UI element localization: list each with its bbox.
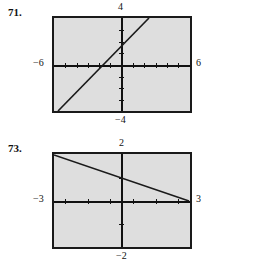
axis-label-left-71: −6 <box>33 58 44 68</box>
plot-box-71 <box>52 16 192 113</box>
axis-label-top-73: 2 <box>119 138 124 148</box>
axis-label-bottom-71: −4 <box>115 115 126 125</box>
axis-label-right-71: 6 <box>196 58 201 68</box>
figure-number-71: 71. <box>8 6 22 18</box>
plot-box-73 <box>52 152 192 249</box>
axis-label-right-73: 3 <box>196 194 201 204</box>
axis-label-left-73: −3 <box>33 194 44 204</box>
figure-number-73: 73. <box>8 142 22 154</box>
axis-label-top-71: 4 <box>118 2 123 12</box>
line-graph-73 <box>54 154 190 247</box>
axis-label-bottom-73: −2 <box>116 251 127 261</box>
line-graph-71 <box>54 18 190 111</box>
plot-surface-73 <box>54 154 190 247</box>
plot-surface-71 <box>54 18 190 111</box>
